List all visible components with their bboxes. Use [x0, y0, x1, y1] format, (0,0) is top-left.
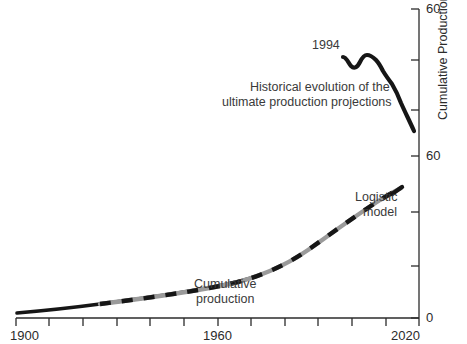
annotation-historical-line1: Historical evolution of the [250, 80, 390, 96]
annotation-historical-line2: ultimate production projections [222, 95, 392, 111]
annotation-logistic-line2: model [363, 205, 397, 221]
x-tick-label-middle: 1960 [203, 329, 232, 342]
y-axis-right [411, 9, 419, 318]
y-tick-label-lower-top: 60 [426, 149, 440, 162]
annotation-cumulative-line1: Cumulative [194, 277, 257, 293]
annotation-logistic-line1: Logistic [355, 190, 397, 206]
y-axis-title: Cumulative Production, Gt [436, 0, 450, 120]
x-tick-label-start: 1900 [10, 329, 39, 342]
x-axis [16, 318, 419, 326]
chart-figure: 1900 1960 2020 60 60 0 Cumulative Produc… [0, 0, 467, 344]
annotation-year-1994: 1994 [312, 38, 340, 54]
annotation-cumulative-line2: production [196, 292, 254, 308]
x-tick-label-end: 2020 [391, 329, 420, 342]
y-tick-label-lower-bottom: 0 [426, 311, 433, 324]
